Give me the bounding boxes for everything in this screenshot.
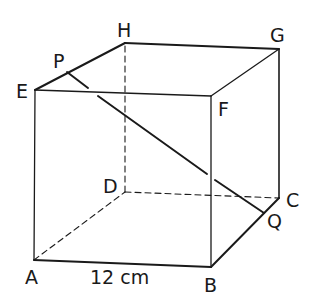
segment-PQ-part3 xyxy=(215,180,264,213)
edge-FG xyxy=(211,49,279,96)
vertex-label-G: G xyxy=(270,26,285,45)
edge-AD xyxy=(34,192,125,260)
point-label-P: P xyxy=(53,52,64,71)
vertex-label-C: C xyxy=(286,191,299,210)
point-label-Q: Q xyxy=(267,212,282,231)
vertex-label-D: D xyxy=(103,177,118,196)
cube-diagram: H G P E F D C Q A 12 cm B xyxy=(0,0,318,302)
segment-PQ-part1 xyxy=(67,72,88,88)
segment-PQ-part2 xyxy=(98,96,207,174)
edge-BC xyxy=(211,198,279,267)
vertex-label-A: A xyxy=(25,268,38,287)
edge-HG xyxy=(125,43,279,49)
vertex-label-B: B xyxy=(204,276,217,295)
edge-EA xyxy=(34,90,35,260)
vertex-label-E: E xyxy=(16,82,28,101)
edge-DC xyxy=(125,192,279,198)
vertex-label-H: H xyxy=(117,21,131,40)
vertex-label-F: F xyxy=(218,100,229,119)
dimension-label-AB: 12 cm xyxy=(90,268,149,287)
edge-EF xyxy=(35,90,211,96)
